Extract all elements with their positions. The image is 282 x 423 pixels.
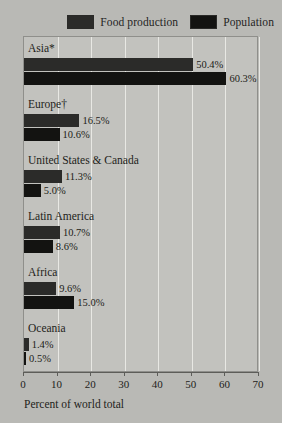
legend-swatch-food-production xyxy=(67,15,94,29)
x-axis-tick xyxy=(23,372,24,376)
bar-group: Asia*50.4%60.3% xyxy=(24,37,257,93)
bar-food-production xyxy=(24,170,62,183)
x-axis-tick-label: 10 xyxy=(51,378,62,390)
x-axis-line xyxy=(23,372,258,373)
bar-food-production xyxy=(24,282,56,295)
bar-group: Africa9.6%15.0% xyxy=(24,261,257,317)
bar-population xyxy=(24,128,60,141)
bar-value-label: 8.6% xyxy=(56,241,78,252)
legend-item-population: Population xyxy=(190,15,274,29)
bar-value-label: 0.5% xyxy=(29,353,51,364)
legend-item-food-production: Food production xyxy=(67,15,178,29)
bar-population xyxy=(24,296,74,309)
bar-group: United States & Canada11.3%5.0% xyxy=(24,149,257,205)
bar-population xyxy=(24,72,226,85)
bar-population xyxy=(24,352,26,365)
bar-value-label: 5.0% xyxy=(44,185,66,196)
category-label: United States & Canada xyxy=(28,154,139,166)
bar-food-production xyxy=(24,114,79,127)
plot-area: Asia*50.4%60.3%Europe†16.5%10.6%United S… xyxy=(23,36,258,372)
bar-value-label: 60.3% xyxy=(229,73,256,84)
bar-food-production xyxy=(24,338,29,351)
bar-value-label: 16.5% xyxy=(82,115,109,126)
category-label: Asia* xyxy=(28,42,55,54)
bar-value-label: 10.6% xyxy=(63,129,90,140)
category-label: Latin America xyxy=(28,210,94,222)
x-axis-tick-label: 70 xyxy=(253,378,264,390)
chart-legend: Food production Population xyxy=(0,13,282,31)
x-axis-tick-label: 50 xyxy=(185,378,196,390)
x-axis-tick-label: 30 xyxy=(118,378,129,390)
gridline xyxy=(259,37,260,371)
x-axis-tick xyxy=(224,372,225,376)
category-label: Oceania xyxy=(28,322,66,334)
x-axis-tick xyxy=(57,372,58,376)
bar-value-label: 11.3% xyxy=(65,171,92,182)
bar-group: Europe†16.5%10.6% xyxy=(24,93,257,149)
legend-swatch-population xyxy=(190,15,217,29)
bar-value-label: 9.6% xyxy=(59,283,81,294)
x-axis-tick xyxy=(90,372,91,376)
bar-population xyxy=(24,184,41,197)
legend-label-food-production: Food production xyxy=(100,16,178,28)
bar-value-label: 1.4% xyxy=(32,339,54,350)
x-axis-title: Percent of world total xyxy=(24,398,124,410)
x-axis-tick-label: 0 xyxy=(20,378,26,390)
category-label: Africa xyxy=(28,266,57,278)
chart-figure: Food production Population Asia*50.4%60.… xyxy=(0,0,282,423)
x-axis-tick xyxy=(191,372,192,376)
x-axis-tick-label: 20 xyxy=(85,378,96,390)
legend-label-population: Population xyxy=(223,16,274,28)
bar-food-production xyxy=(24,58,193,71)
x-axis-tick-label: 60 xyxy=(219,378,230,390)
bar-food-production xyxy=(24,226,60,239)
x-axis-tick xyxy=(157,372,158,376)
bar-group: Oceania1.4%0.5% xyxy=(24,317,257,373)
bar-group: Latin America10.7%8.6% xyxy=(24,205,257,261)
bar-value-label: 10.7% xyxy=(63,227,90,238)
category-label: Europe† xyxy=(28,98,67,110)
bar-population xyxy=(24,240,53,253)
x-axis-tick xyxy=(258,372,259,376)
x-axis-tick-label: 40 xyxy=(152,378,163,390)
bar-value-label: 15.0% xyxy=(77,297,104,308)
x-axis-tick xyxy=(124,372,125,376)
bar-value-label: 50.4% xyxy=(196,59,223,70)
